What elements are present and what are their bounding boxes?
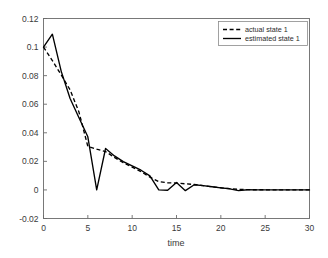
y-tick-label: 0.08 xyxy=(22,71,39,81)
y-axis-tick-labels: 0.120.10.080.060.040.020-0.02 xyxy=(19,14,39,224)
legend-label-actual-state-1: actual state 1 xyxy=(245,25,288,34)
line-chart: 051015202530 0.120.10.080.060.040.020-0.… xyxy=(0,0,328,258)
x-tick-label: 5 xyxy=(85,223,90,233)
x-tick-label: 0 xyxy=(41,223,46,233)
series-estimated-state-1 xyxy=(44,34,310,190)
figure-canvas: 051015202530 0.120.10.080.060.040.020-0.… xyxy=(0,0,328,258)
x-axis-tick-labels: 051015202530 xyxy=(41,223,314,233)
x-tick-label: 25 xyxy=(260,223,270,233)
y-tick-label: 0.1 xyxy=(27,42,39,52)
x-tick-label: 30 xyxy=(305,223,315,233)
legend-label-estimated-state-1: estimated state 1 xyxy=(245,34,300,43)
chart-legend: actual state 1 estimated state 1 xyxy=(219,22,308,46)
x-tick-label: 10 xyxy=(127,223,137,233)
y-tick-label: -0.02 xyxy=(19,214,39,224)
series-actual-state-1 xyxy=(44,47,310,190)
y-tick-label: 0.06 xyxy=(22,99,39,109)
x-tick-label: 15 xyxy=(172,223,182,233)
x-axis-title: time xyxy=(167,238,184,248)
x-axis-ticks xyxy=(44,215,310,219)
x-tick-label: 20 xyxy=(216,223,226,233)
y-tick-label: 0.02 xyxy=(22,156,39,166)
y-tick-label: 0.04 xyxy=(22,128,39,138)
y-tick-label: 0.12 xyxy=(22,14,39,24)
y-tick-label: 0 xyxy=(34,185,39,195)
plot-axes-box xyxy=(44,19,310,219)
